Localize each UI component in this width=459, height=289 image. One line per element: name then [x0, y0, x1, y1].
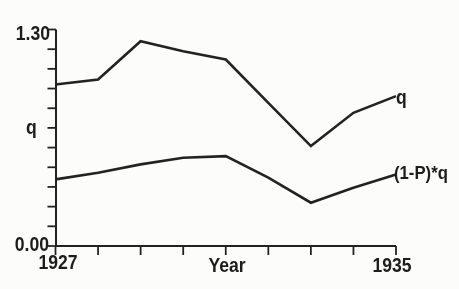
- series-lines: [56, 41, 397, 203]
- axis-lines: [56, 30, 396, 247]
- x-axis-first-tick-label: 1927: [32, 252, 85, 272]
- series-label-q: q: [396, 87, 407, 107]
- y-axis-max-label: 1.30: [6, 23, 50, 43]
- series-label-1-minus-p-times-q: (1-P)*q: [394, 163, 448, 183]
- series-line-1-minus-p-times-q: [56, 156, 397, 203]
- chart-canvas: [0, 0, 459, 289]
- y-axis-ticks: [48, 30, 57, 247]
- series-line-q: [56, 41, 397, 146]
- line-chart-figure: 1.30 0.00 q 1927 Year 1935 q (1-P)*q: [0, 0, 459, 289]
- x-axis-last-tick-label: 1935: [366, 255, 419, 275]
- y-axis-title: q: [26, 117, 37, 137]
- x-axis-title: Year: [201, 255, 254, 275]
